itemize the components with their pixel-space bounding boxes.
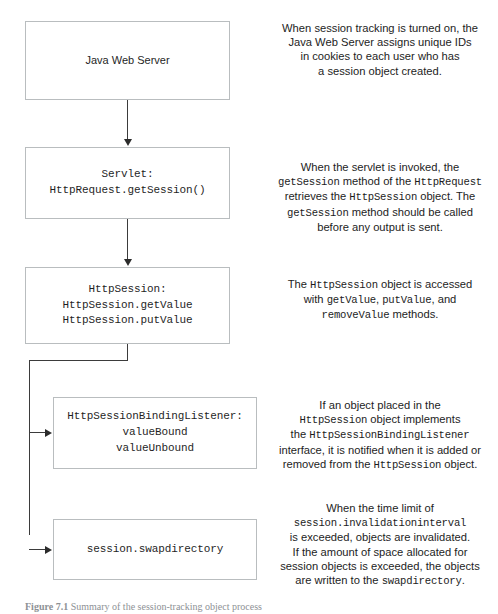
connector-servlet-to-session <box>127 219 128 260</box>
note-text: before any output is sent. <box>317 221 443 233</box>
note-text: When the time limit of <box>326 502 434 514</box>
note-text: removed from the <box>283 458 374 470</box>
note-text: The <box>288 278 310 290</box>
session-tracking-flow-figure: Java Web Server Servlet: HttpRequest.get… <box>0 0 498 614</box>
flow-node-line: HttpSession: <box>88 282 166 298</box>
note-code: HttpSession <box>299 414 367 426</box>
flow-node-line: HttpRequest.getSession() <box>49 183 205 199</box>
note-text: retrieves the <box>285 190 350 202</box>
note-session-tracking: When session tracking is turned on, the … <box>268 21 492 78</box>
note-text: . <box>462 574 465 586</box>
flow-node-session-swapdirectory: session.swapdirectory <box>53 519 257 580</box>
flow-node-line: valueUnbound <box>116 441 194 457</box>
note-code: HttpSession <box>373 459 441 471</box>
note-text: object. The <box>417 190 475 202</box>
note-code: getValue <box>327 294 376 306</box>
note-code: swapdirectory <box>382 575 462 587</box>
note-code: getSession <box>287 207 349 219</box>
arrow-down-icon <box>124 259 132 266</box>
flow-node-httpsession: HttpSession: HttpSession.getValue HttpSe… <box>25 267 230 344</box>
flow-node-line: HttpSession.getValue <box>62 298 192 314</box>
note-httpsession-access: The HttpSession object is accessed with … <box>268 277 492 323</box>
note-text: object is accessed <box>378 278 473 290</box>
flow-node-line: HttpSession.putValue <box>62 313 192 329</box>
note-text: When the servlet is invoked, the <box>301 161 460 173</box>
note-code: HttpRequest <box>414 176 482 188</box>
note-swapdirectory: When the time limit of session.invalidat… <box>268 501 492 588</box>
note-line: Java Web Server assigns unique IDs <box>288 36 471 48</box>
figure-caption: Figure 7.1 Summary of the session-tracki… <box>25 601 465 613</box>
note-line: in cookies to each user who has <box>300 50 459 62</box>
note-code: HttpSessionBindingListener <box>309 429 469 441</box>
note-getsession: When the servlet is invoked, the getSess… <box>268 160 492 234</box>
figure-caption-text: Summary of the session-tracking object p… <box>71 601 262 612</box>
note-text: the <box>291 428 310 440</box>
flow-node-line: session.swapdirectory <box>87 542 224 558</box>
note-code: putValue <box>382 294 431 306</box>
note-text: , and <box>431 293 456 305</box>
note-text: session objects is exceeded, the objects <box>280 560 480 572</box>
flow-node-line: valueBound <box>122 425 187 441</box>
connector-server-to-servlet <box>127 100 128 140</box>
figure-caption-label: Figure 7.1 <box>25 601 68 612</box>
note-code: HttpSession <box>349 191 417 203</box>
note-text: method of the <box>340 175 415 187</box>
note-text: If an object placed in the <box>319 399 440 411</box>
arrow-right-icon <box>45 546 52 554</box>
note-text: method should be called <box>349 206 473 218</box>
note-text: methods. <box>389 308 438 320</box>
note-line: When session tracking is turned on, the <box>282 22 478 34</box>
connector-session-elbow <box>29 360 128 361</box>
arrow-right-icon <box>45 429 52 437</box>
note-text: with <box>304 293 327 305</box>
note-text: is exceeded, objects are invalidated. <box>290 531 470 543</box>
flow-node-java-web-server: Java Web Server <box>25 21 230 100</box>
note-text: interface, it is notified when it is add… <box>279 444 481 456</box>
note-text: are written to the <box>295 574 381 586</box>
note-line: a session object created. <box>318 65 442 77</box>
connector-session-stub <box>127 344 128 361</box>
note-text: object implements <box>367 413 460 425</box>
arrow-down-icon <box>124 139 132 146</box>
flow-node-line: HttpSessionBindingListener: <box>67 409 243 425</box>
flow-node-httpsessionbindinglistener: HttpSessionBindingListener: valueBound v… <box>53 397 257 469</box>
note-code: getSession <box>278 176 340 188</box>
note-text: If the amount of space allocated for <box>293 546 468 558</box>
flow-node-servlet-getsession: Servlet: HttpRequest.getSession() <box>25 147 230 219</box>
note-text: object. <box>441 458 477 470</box>
flow-node-line: Servlet: <box>101 167 153 183</box>
note-code: session.invalidationinterval <box>294 517 466 529</box>
flow-node-line: Java Web Server <box>85 53 169 69</box>
connector-spine <box>29 360 30 535</box>
note-code: removeValue <box>322 309 390 321</box>
note-binding-listener: If an object placed in the HttpSession o… <box>268 398 492 472</box>
note-code: HttpSession <box>310 279 378 291</box>
